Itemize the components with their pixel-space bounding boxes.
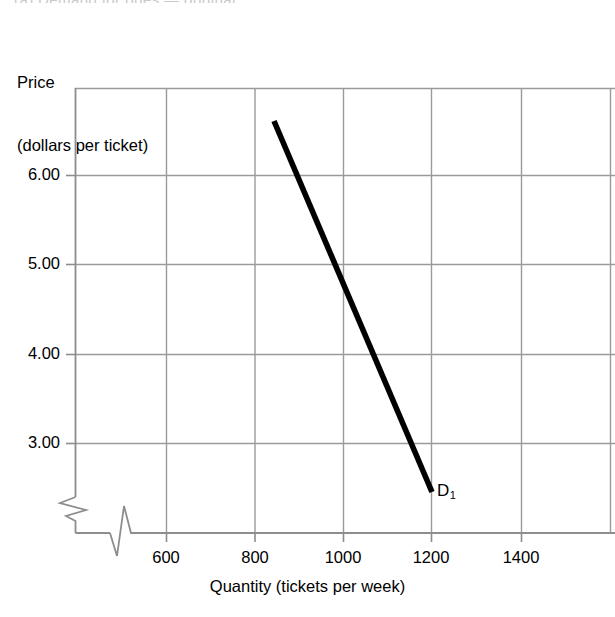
x-tick-label-600: 600 (126, 548, 206, 567)
x-tick-label-1200: 1200 (391, 548, 471, 567)
y-tick-label-3: 3.00 (0, 433, 60, 452)
x-tick-label-1000: 1000 (303, 548, 383, 567)
y-axis-ticks (66, 176, 75, 444)
y-axis-spine (60, 88, 86, 533)
x-axis-title: Quantity (tickets per week) (0, 577, 615, 596)
demand-curve-d1 (274, 121, 432, 492)
curve-label-subscript: 1 (450, 489, 456, 501)
x-tick-label-1400: 1400 (481, 548, 561, 567)
y-tick-label-5: 5.00 (0, 254, 60, 273)
x-axis-ticks (167, 533, 522, 542)
demand-curve-chart (0, 0, 615, 617)
x-tick-label-800: 800 (215, 548, 295, 567)
curve-label-letter: D (437, 481, 449, 500)
curve-label-d1: D1 (437, 481, 455, 501)
grid-lines (75, 88, 615, 533)
y-tick-label-4: 4.00 (0, 344, 60, 363)
y-tick-label-6: 6.00 (0, 165, 60, 184)
